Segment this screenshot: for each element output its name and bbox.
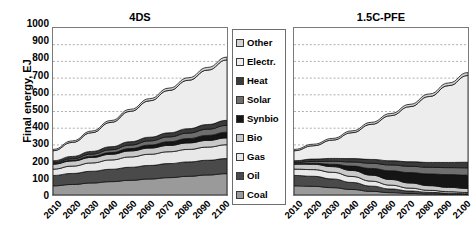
y-tick-label: 900 — [32, 36, 49, 46]
x-tick-label: 2020 — [60, 198, 83, 221]
legend-item-label: Solar — [247, 95, 271, 105]
panel-title-left: 4DS — [52, 11, 228, 23]
legend-item-label: Gas — [247, 152, 265, 162]
legend-item-label: Electr. — [247, 57, 276, 67]
y-tick-label: 1000 — [27, 19, 49, 29]
legend-swatch-icon — [236, 96, 244, 104]
x-tick-label: 2030 — [319, 198, 342, 221]
x-tick-label: 2080 — [172, 198, 195, 221]
y-tick-label: 800 — [32, 53, 49, 63]
x-tick-label: 2060 — [134, 198, 157, 221]
legend-swatch-icon — [236, 153, 244, 161]
x-tick-label: 2040 — [97, 198, 120, 221]
legend-item-other[interactable]: Other — [236, 33, 283, 52]
y-tick-label: 100 — [32, 174, 49, 184]
stacked-area-plot-4ds — [53, 28, 227, 195]
legend-item-label: Bio — [247, 133, 262, 143]
x-tick-label: 2020 — [301, 198, 324, 221]
y-tick-label: 700 — [32, 71, 49, 81]
x-axis-tick-labels-left: 2010202020302040205020602070208020902100 — [52, 198, 228, 244]
x-tick-label: 2090 — [431, 198, 454, 221]
legend-item-bio[interactable]: Bio — [236, 128, 283, 147]
legend-swatch-icon — [236, 191, 244, 199]
legend-swatch-icon — [236, 77, 244, 85]
x-tick-label: 2070 — [394, 198, 417, 221]
legend-item-gas[interactable]: Gas — [236, 147, 283, 166]
legend-item-label: Oil — [247, 171, 260, 181]
legend-swatch-icon — [236, 172, 244, 180]
x-axis-tick-labels-right: 2010202020302040205020602070208020902100 — [293, 198, 469, 244]
x-tick-label: 2100 — [209, 198, 232, 221]
x-tick-label: 2030 — [78, 198, 101, 221]
legend-item-synbio[interactable]: Synbio — [236, 109, 283, 128]
x-tick-label: 2060 — [375, 198, 398, 221]
x-tick-label: 2050 — [116, 198, 139, 221]
x-tick-label: 2050 — [357, 198, 380, 221]
x-tick-label: 2010 — [41, 198, 64, 221]
legend-swatch-icon — [236, 134, 244, 142]
panel-title-right: 1.5C-PFE — [293, 11, 469, 23]
x-tick-label: 2080 — [413, 198, 436, 221]
chart-legend: OtherElectr.HeatSolarSynbioBioGasOilCoal — [232, 29, 286, 205]
y-tick-label: 600 — [32, 88, 49, 98]
legend-item-heat[interactable]: Heat — [236, 71, 283, 90]
legend-item-coal[interactable]: Coal — [236, 185, 283, 204]
legend-swatch-icon — [236, 39, 244, 47]
legend-swatch-icon — [236, 58, 244, 66]
legend-item-label: Coal — [247, 190, 268, 200]
legend-item-label: Synbio — [247, 114, 279, 124]
legend-item-electr[interactable]: Electr. — [236, 52, 283, 71]
y-tick-label: 500 — [32, 105, 49, 115]
legend-item-oil[interactable]: Oil — [236, 166, 283, 185]
chart-panel-4ds — [52, 27, 228, 196]
chart-figure: Final energy, EJ 10009008007006005004003… — [0, 0, 471, 247]
x-tick-label: 2090 — [190, 198, 213, 221]
x-tick-label: 2100 — [450, 198, 471, 221]
y-tick-label: 300 — [32, 139, 49, 149]
y-tick-label: 400 — [32, 122, 49, 132]
stacked-area-plot-15cpfe — [294, 28, 468, 195]
legend-swatch-icon — [236, 115, 244, 123]
legend-item-label: Heat — [247, 76, 268, 86]
chart-panel-15cpfe — [293, 27, 469, 196]
y-tick-label: 0 — [43, 191, 49, 201]
y-axis-tick-labels: 10009008007006005004003002001000 — [16, 24, 49, 196]
legend-item-solar[interactable]: Solar — [236, 90, 283, 109]
legend-item-label: Other — [247, 38, 272, 48]
x-tick-label: 2070 — [153, 198, 176, 221]
y-tick-label: 200 — [32, 157, 49, 167]
x-tick-label: 2040 — [338, 198, 361, 221]
